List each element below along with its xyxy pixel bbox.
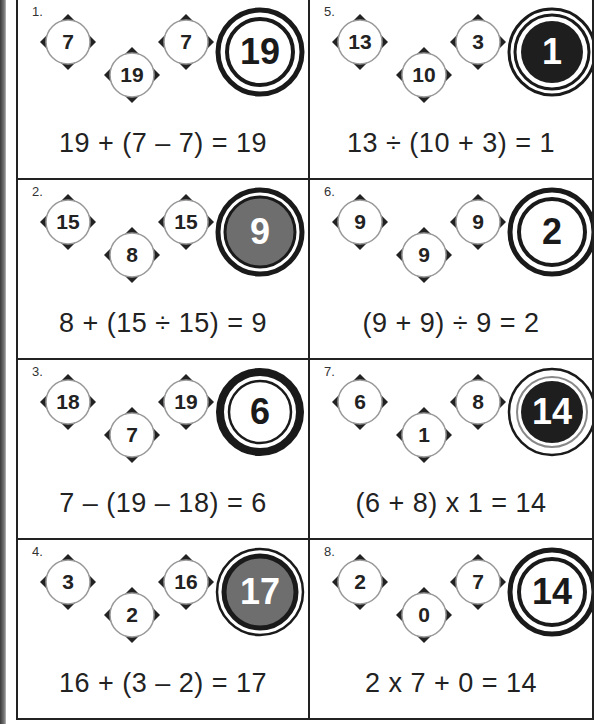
puzzle-grid: 1. 7 19 7 19 19 <box>16 0 594 720</box>
diamond-number-3: 9 <box>448 192 508 252</box>
number-diamond: 8 <box>102 225 162 285</box>
diamond-number-2: 19 <box>102 45 162 105</box>
answer-target-circle: 14 <box>506 546 592 638</box>
puzzle-cell-4: 4. 3 2 16 17 16 <box>18 540 310 718</box>
answer-target-circle: 9 <box>214 186 306 278</box>
number-diamond: 3 <box>38 552 98 612</box>
number-diamond: 7 <box>38 12 98 72</box>
diamond-number-2: 10 <box>394 45 454 105</box>
diamond-number-1: 3 <box>38 552 98 612</box>
diamond-number-3: 16 <box>156 552 216 612</box>
number-diamond: 8 <box>448 372 508 432</box>
equation-text: (6 + 8) x 1 = 14 <box>310 488 592 519</box>
diamond-number-2: 2 <box>102 585 162 645</box>
number-diamond: 13 <box>330 12 390 72</box>
number-diamond: 16 <box>156 552 216 612</box>
number-diamond: 3 <box>448 12 508 72</box>
diamond-number-3: 7 <box>448 552 508 612</box>
puzzle-cell-1: 1. 7 19 7 19 19 <box>18 0 310 180</box>
number-diamond: 0 <box>394 585 454 645</box>
number-diamond: 15 <box>156 192 216 252</box>
diamond-number-3: 8 <box>448 372 508 432</box>
number-diamond: 2 <box>102 585 162 645</box>
page-edge-strip <box>0 0 6 724</box>
answer-value: 1 <box>506 6 592 98</box>
puzzle-cell-8: 8. 2 0 7 14 2 x <box>310 540 592 718</box>
equation-text: 2 x 7 + 0 = 14 <box>310 668 592 699</box>
answer-target-circle: 14 <box>506 366 592 458</box>
answer-value: 14 <box>506 546 592 638</box>
diamond-number-2: 9 <box>394 225 454 285</box>
diamond-number-3: 3 <box>448 12 508 72</box>
number-diamond: 19 <box>102 45 162 105</box>
answer-target-circle: 2 <box>506 186 592 278</box>
equation-text: 7 – (19 – 18) = 6 <box>18 488 308 519</box>
diamond-number-2: 7 <box>102 405 162 465</box>
number-diamond: 7 <box>156 12 216 72</box>
number-diamond: 2 <box>330 552 390 612</box>
number-diamond: 9 <box>448 192 508 252</box>
diamond-number-1: 6 <box>330 372 390 432</box>
answer-target-circle: 19 <box>214 6 306 98</box>
number-diamond: 6 <box>330 372 390 432</box>
diamond-number-2: 8 <box>102 225 162 285</box>
diamond-number-1: 9 <box>330 192 390 252</box>
answer-target-circle: 17 <box>214 546 306 638</box>
answer-target-circle: 1 <box>506 6 592 98</box>
diamond-number-3: 7 <box>156 12 216 72</box>
answer-value: 14 <box>506 366 592 458</box>
number-diamond: 19 <box>156 372 216 432</box>
number-diamond: 7 <box>102 405 162 465</box>
equation-text: 19 + (7 – 7) = 19 <box>18 128 308 159</box>
puzzle-cell-7: 7. 6 1 8 1 <box>310 360 592 540</box>
number-diamond: 15 <box>38 192 98 252</box>
diamond-number-2: 0 <box>394 585 454 645</box>
number-diamond: 1 <box>394 405 454 465</box>
diamond-number-1: 7 <box>38 12 98 72</box>
diamond-number-3: 15 <box>156 192 216 252</box>
answer-target-circle: 6 <box>214 366 306 458</box>
answer-value: 17 <box>214 546 306 638</box>
equation-text: 13 ÷ (10 + 3) = 1 <box>310 128 592 159</box>
number-diamond: 10 <box>394 45 454 105</box>
puzzle-cell-5: 5. 13 10 3 <box>310 0 592 180</box>
number-diamond: 18 <box>38 372 98 432</box>
puzzle-cell-6: 6. 9 9 9 2 (9 + <box>310 180 592 360</box>
diamond-number-1: 15 <box>38 192 98 252</box>
number-diamond: 7 <box>448 552 508 612</box>
equation-text: 16 + (3 – 2) = 17 <box>18 668 308 699</box>
number-diamond: 9 <box>330 192 390 252</box>
answer-value: 6 <box>214 366 306 458</box>
equation-text: (9 + 9) ÷ 9 = 2 <box>310 308 592 339</box>
answer-value: 19 <box>214 6 306 98</box>
diamond-number-3: 19 <box>156 372 216 432</box>
equation-text: 8 + (15 ÷ 15) = 9 <box>18 308 308 339</box>
puzzle-cell-2: 2. 15 8 15 9 8 <box>18 180 310 360</box>
diamond-number-1: 18 <box>38 372 98 432</box>
puzzle-cell-3: 3. 18 7 19 6 7 <box>18 360 310 540</box>
diamond-number-1: 13 <box>330 12 390 72</box>
number-diamond: 9 <box>394 225 454 285</box>
diamond-number-2: 1 <box>394 405 454 465</box>
answer-value: 9 <box>214 186 306 278</box>
diamond-number-1: 2 <box>330 552 390 612</box>
answer-value: 2 <box>506 186 592 278</box>
